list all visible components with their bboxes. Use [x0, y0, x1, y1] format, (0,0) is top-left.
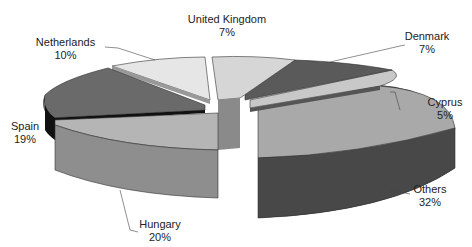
label-name: Netherlands: [28, 36, 103, 49]
label-pct: 32%: [405, 196, 455, 209]
label-spain: Spain 19%: [5, 120, 45, 146]
label-cyprus: Cyprus 5%: [420, 96, 470, 122]
label-name: Denmark: [392, 30, 462, 43]
label-others: Others 32%: [405, 183, 455, 209]
label-name: Spain: [5, 120, 45, 133]
label-name: Others: [405, 183, 455, 196]
label-pct: 19%: [5, 133, 45, 146]
label-pct: 5%: [420, 109, 470, 122]
label-name: Cyprus: [420, 96, 470, 109]
label-denmark: Denmark 7%: [392, 30, 462, 56]
label-name: Hungary: [130, 218, 190, 231]
label-pct: 10%: [28, 49, 103, 62]
label-hungary: Hungary 20%: [130, 218, 190, 244]
label-name: United Kingdom: [172, 13, 282, 26]
slice-hungary: [55, 113, 218, 198]
label-netherlands: Netherlands 10%: [28, 36, 103, 62]
label-pct: 20%: [130, 231, 190, 244]
label-united-kingdom: United Kingdom 7%: [172, 13, 282, 39]
label-pct: 7%: [172, 26, 282, 39]
label-pct: 7%: [392, 43, 462, 56]
